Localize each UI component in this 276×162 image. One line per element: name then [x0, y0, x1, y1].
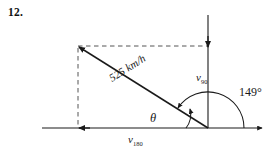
- bearing-angle-label: 149°: [239, 85, 262, 99]
- theta-angle-arc: [186, 109, 191, 128]
- figure-root: 12. 525: [0, 0, 276, 162]
- vector-diagram: 525 km/h v90 v180 149° θ: [0, 0, 276, 162]
- v90-subscript: 90: [201, 78, 208, 85]
- v180-subscript: 180: [133, 140, 143, 147]
- theta-angle-label: θ: [150, 111, 156, 125]
- bearing-angle-arc: [178, 92, 244, 128]
- v180-label: v180: [128, 133, 143, 147]
- v90-label: v90: [196, 71, 207, 85]
